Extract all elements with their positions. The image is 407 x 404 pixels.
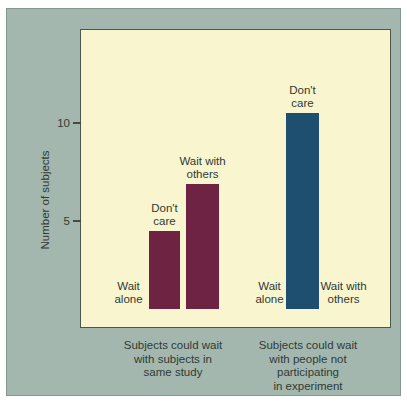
bar-label: Wait alone [114, 280, 142, 306]
chart-panel: Number of subjects 5 10 Wait alone Don't… [6, 8, 401, 396]
bar-label: Don't care [151, 202, 178, 228]
y-tick-5: 5 [45, 213, 81, 229]
y-tick-mark [73, 220, 81, 222]
bar [186, 184, 219, 309]
bar [286, 113, 319, 309]
group-label-same-study: Subjects could wait with subjects in sam… [124, 339, 222, 380]
figure-canvas: Number of subjects 5 10 Wait alone Don't… [0, 0, 407, 404]
bar-label: Don't care [289, 84, 316, 110]
bar-label: Wait alone [255, 280, 283, 306]
y-tick-label: 5 [64, 215, 70, 227]
y-tick-mark [73, 122, 81, 124]
group-label-not-participating: Subjects could wait with people not part… [259, 339, 357, 393]
y-tick-10: 10 [45, 115, 81, 131]
bar-label: Wait with others [179, 155, 225, 181]
bar [149, 231, 180, 309]
y-tick-label: 10 [57, 117, 70, 129]
y-axis-title: Number of subjects [39, 150, 51, 249]
bar-label: Wait with others [320, 280, 366, 306]
